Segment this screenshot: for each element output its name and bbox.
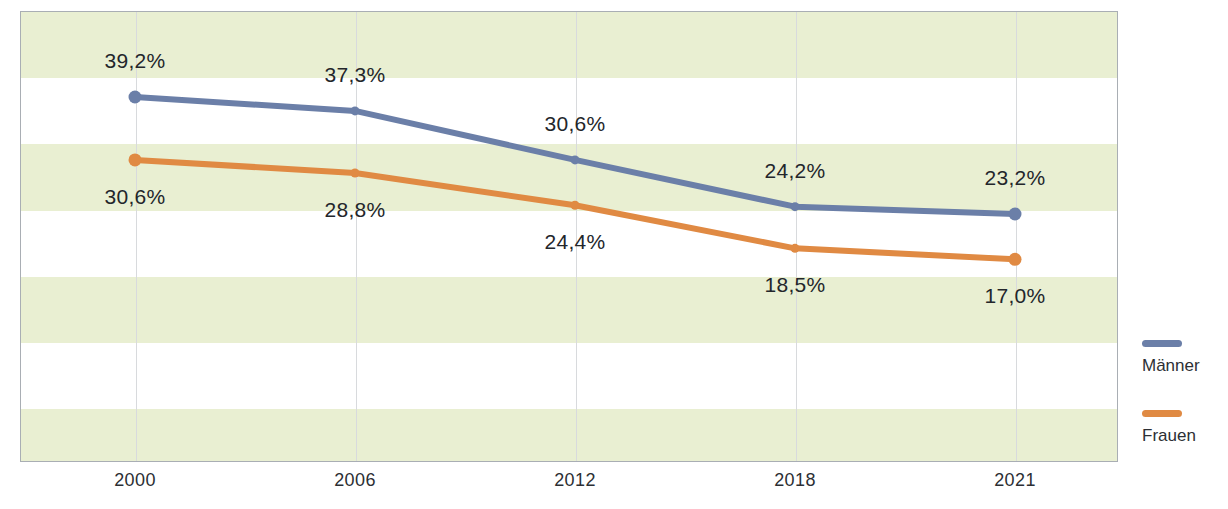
legend-item-frauen[interactable]: Frauen <box>1142 410 1228 446</box>
value-label-frauen-2018: 18,5% <box>764 273 825 297</box>
background-band <box>21 12 1117 78</box>
x-tick-2021: 2021 <box>994 470 1036 491</box>
legend: Männer Frauen <box>1142 340 1228 480</box>
value-label-frauen-2012: 24,4% <box>544 230 605 254</box>
background-band <box>21 144 1117 210</box>
value-label-frauen-2021: 17,0% <box>984 284 1045 308</box>
x-tick-2018: 2018 <box>774 470 816 491</box>
legend-swatch-frauen <box>1142 410 1182 417</box>
legend-swatch-maenner <box>1142 340 1182 347</box>
background-band <box>21 409 1117 462</box>
value-label-männer-2018: 24,2% <box>764 159 825 183</box>
value-label-männer-2012: 30,6% <box>544 112 605 136</box>
value-label-frauen-2006: 28,8% <box>324 198 385 222</box>
x-tick-2000: 2000 <box>114 470 156 491</box>
legend-label-frauen: Frauen <box>1142 426 1228 446</box>
gridline-2018 <box>796 12 797 461</box>
gridline-2000 <box>136 12 137 461</box>
x-tick-2012: 2012 <box>554 470 596 491</box>
value-label-männer-2021: 23,2% <box>984 166 1045 190</box>
background-band <box>21 277 1117 343</box>
gridline-2021 <box>1016 12 1017 461</box>
value-label-frauen-2000: 30,6% <box>104 185 165 209</box>
value-label-männer-2006: 37,3% <box>324 63 385 87</box>
legend-item-maenner[interactable]: Männer <box>1142 340 1228 376</box>
x-tick-2006: 2006 <box>334 470 376 491</box>
chart-canvas: 39,2%37,3%30,6%24,2%23,2%30,6%28,8%24,4%… <box>0 0 1228 509</box>
value-label-männer-2000: 39,2% <box>104 49 165 73</box>
legend-label-maenner: Männer <box>1142 356 1228 376</box>
